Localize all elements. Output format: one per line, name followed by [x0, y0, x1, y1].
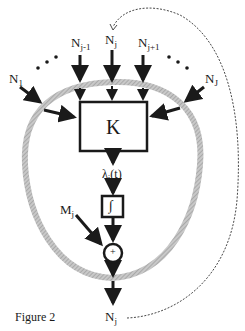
sum-symbol: + [110, 247, 116, 257]
input-label-nj-plus-1: Nj+1 [138, 36, 159, 52]
input-label-nJ: NJ [205, 72, 218, 88]
diagram-canvas [0, 0, 245, 331]
input-label-n1: N1 [9, 72, 23, 88]
input-label-nj: Nj [105, 33, 117, 49]
rate-label: λj(t) [102, 168, 122, 183]
input-label-nj-minus-1: Nj-1 [71, 36, 90, 52]
kernel-label: K [106, 117, 120, 137]
external-input-label: Mj [60, 203, 74, 219]
integrator-symbol: ∫ [109, 199, 113, 213]
figure-caption: Figure 2 [15, 311, 55, 323]
output-label: Nj [105, 310, 117, 326]
